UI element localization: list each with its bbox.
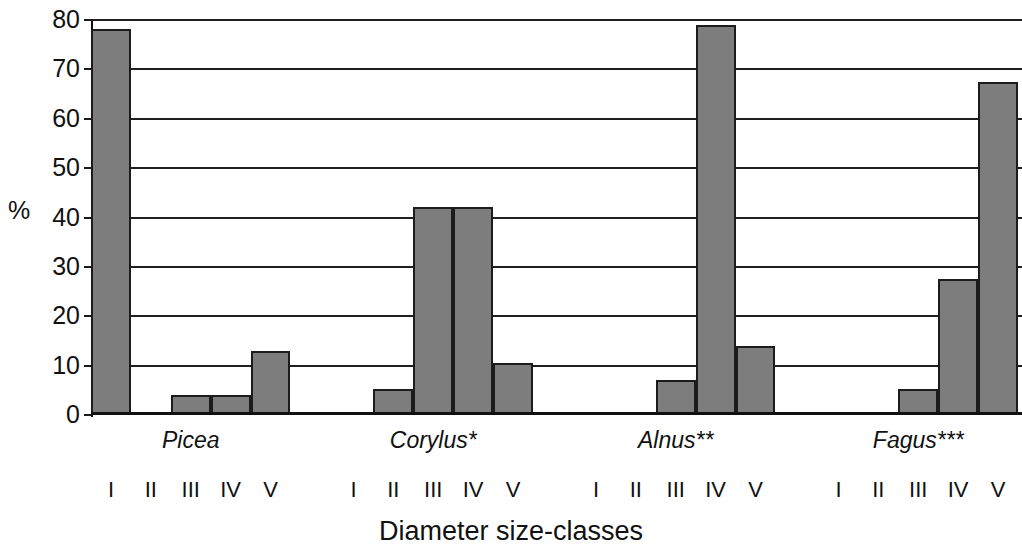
bar-chart-figure: % 01020304050607080 PiceaCorylus*Alnus**… xyxy=(0,0,1022,551)
class-tick-label: V xyxy=(736,478,776,502)
bar xyxy=(656,380,696,415)
class-tick-label: IV xyxy=(938,478,978,502)
bar xyxy=(696,25,736,415)
bar xyxy=(938,279,978,415)
class-tick-label: I xyxy=(91,478,131,502)
y-tick-label: 30 xyxy=(28,254,80,279)
class-tick-label: V xyxy=(493,478,533,502)
gridline xyxy=(91,266,1022,268)
y-tick-label: 50 xyxy=(28,155,80,180)
y-tick-label: 20 xyxy=(28,303,80,328)
group-label: Picea xyxy=(91,427,291,453)
x-axis-title: Diameter size-classes xyxy=(0,516,1022,546)
gridline xyxy=(91,68,1022,70)
bar xyxy=(736,346,776,415)
y-tick-label: 60 xyxy=(28,106,80,131)
class-tick-label: IV xyxy=(696,478,736,502)
class-tick-label: III xyxy=(171,478,211,502)
bar xyxy=(493,363,533,415)
gridline xyxy=(91,365,1022,367)
class-tick-label: II xyxy=(858,478,898,502)
class-tick-label: I xyxy=(576,478,616,502)
class-tick-label: II xyxy=(131,478,171,502)
class-tick-label: IV xyxy=(453,478,493,502)
bar xyxy=(413,207,453,415)
x-axis-line xyxy=(91,412,1022,415)
y-tick-label: 70 xyxy=(28,56,80,81)
y-tick-label: 0 xyxy=(28,402,80,427)
class-tick-label: IV xyxy=(211,478,251,502)
class-tick-label: I xyxy=(334,478,374,502)
class-tick-label: II xyxy=(373,478,413,502)
class-tick-label: I xyxy=(819,478,859,502)
bar xyxy=(91,29,131,415)
group-label: Corylus* xyxy=(334,427,534,453)
plot-area xyxy=(91,20,1022,415)
bar xyxy=(978,82,1018,415)
group-label: Alnus** xyxy=(576,427,776,453)
y-tick-label: 10 xyxy=(28,353,80,378)
class-tick-label: III xyxy=(413,478,453,502)
class-tick-label: V xyxy=(251,478,291,502)
class-tick-label: III xyxy=(898,478,938,502)
y-tick-label: 80 xyxy=(28,7,80,32)
gridline xyxy=(91,217,1022,219)
bar xyxy=(453,207,493,415)
y-tick-label: 40 xyxy=(28,205,80,230)
class-tick-label: II xyxy=(616,478,656,502)
group-label: Fagus*** xyxy=(819,427,1019,453)
class-tick-label: V xyxy=(978,478,1018,502)
gridline xyxy=(91,315,1022,317)
gridline xyxy=(91,19,1022,21)
gridline xyxy=(91,167,1022,169)
gridline xyxy=(91,118,1022,120)
class-tick-label: III xyxy=(656,478,696,502)
bar xyxy=(251,351,291,415)
